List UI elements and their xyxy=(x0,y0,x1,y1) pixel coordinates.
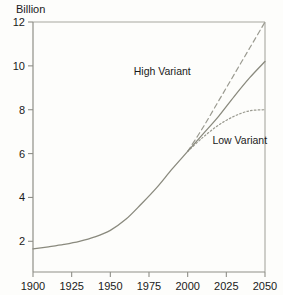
axes xyxy=(33,22,265,272)
series-line-medium-variant xyxy=(33,61,265,249)
y-axis-ticks xyxy=(28,22,33,241)
y-tick-label-10: 10 xyxy=(13,60,25,72)
population-projection-chart: 24681012 1900192519501975200020252050 Bi… xyxy=(0,0,283,295)
x-tick-label-1900: 1900 xyxy=(21,280,45,292)
x-axis-ticks xyxy=(33,272,265,277)
x-tick-label-2000: 2000 xyxy=(175,280,199,292)
y-tick-label-12: 12 xyxy=(13,16,25,28)
y-axis-unit-label: Billion xyxy=(16,3,45,15)
annotation-low-variant: Low Variant xyxy=(212,134,267,146)
x-tick-label-2025: 2025 xyxy=(214,280,238,292)
y-axis-tick-labels: 24681012 xyxy=(13,16,25,247)
x-tick-label-1950: 1950 xyxy=(98,280,122,292)
y-tick-label-6: 6 xyxy=(19,148,25,160)
y-tick-label-8: 8 xyxy=(19,104,25,116)
series-annotations: High VariantLow Variant xyxy=(134,65,267,146)
x-tick-label-1925: 1925 xyxy=(59,280,83,292)
x-axis-tick-labels: 1900192519501975200020252050 xyxy=(21,280,277,292)
plot-frame xyxy=(33,22,265,272)
series-line-high-variant xyxy=(188,22,265,151)
annotation-high-variant: High Variant xyxy=(134,65,191,77)
x-tick-label-2050: 2050 xyxy=(253,280,277,292)
y-tick-label-4: 4 xyxy=(19,191,25,203)
y-tick-label-2: 2 xyxy=(19,235,25,247)
x-tick-label-1975: 1975 xyxy=(137,280,161,292)
chart-canvas: 24681012 1900192519501975200020252050 Bi… xyxy=(0,0,283,295)
